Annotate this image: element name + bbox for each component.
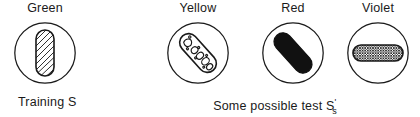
- color-label-violet: Violet: [333, 0, 420, 16]
- diagonal-mottled-pill-icon: [176, 30, 220, 76]
- caption-test-stimuli: Some possible test S's: [190, 94, 360, 117]
- horizontal-crosshatch-pill-icon: [353, 45, 403, 61]
- color-label-yellow: Yellow: [153, 0, 243, 16]
- circle-red: [262, 22, 324, 84]
- caption-test-prefix: Some possible test S: [213, 99, 334, 113]
- caption-training-stimulus: Training S: [18, 94, 77, 110]
- diagonal-solid-pill-icon: [270, 29, 315, 77]
- color-label-green: Green: [0, 0, 90, 16]
- circle-yellow: [167, 22, 229, 84]
- caption-test-subscript: s: [332, 106, 337, 116]
- circle-green: [14, 22, 76, 84]
- vertical-hatched-pill-icon: [22, 22, 66, 84]
- color-label-red: Red: [248, 0, 338, 16]
- stimulus-figure: Green: [0, 0, 420, 117]
- circle-violet: [347, 22, 409, 84]
